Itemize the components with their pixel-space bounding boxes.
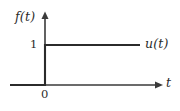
- y-axis-label: f(t): [15, 11, 35, 24]
- curve-label-u-of-t: u(t): [145, 38, 169, 51]
- amplitude-tick-label: 1: [30, 39, 38, 51]
- origin-tick-label: 0: [41, 89, 49, 101]
- unit-step-curve: [10, 45, 140, 85]
- y-axis-arrow-icon: [42, 12, 49, 20]
- unit-step-function-figure: f(t) t 0 1 u(t): [0, 0, 180, 111]
- x-axis-label: t: [166, 77, 171, 90]
- x-axis-arrow-icon: [155, 81, 163, 88]
